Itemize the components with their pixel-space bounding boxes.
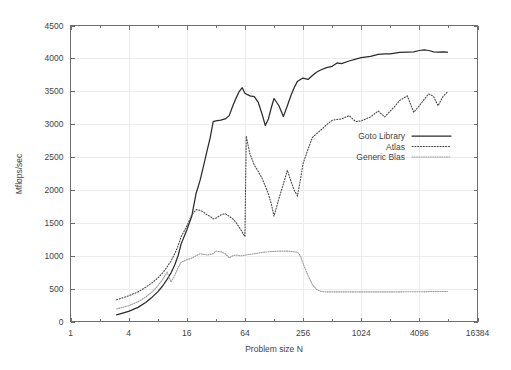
legend-label-atlas: Atlas — [386, 142, 405, 152]
chart-background — [0, 0, 511, 370]
x-axis-title: Problem size N — [245, 344, 303, 354]
x-tick-label: 4 — [126, 328, 131, 338]
y-tick-label: 3000 — [45, 119, 64, 129]
x-tick-label: 1024 — [352, 328, 371, 338]
y-tick-label: 1500 — [45, 218, 64, 228]
y-tick-label: 0 — [59, 317, 64, 327]
x-tick-label: 1 — [68, 328, 73, 338]
y-tick-label: 1000 — [45, 251, 64, 261]
x-tick-label: 256 — [296, 328, 310, 338]
x-tick-label: 16384 — [466, 328, 490, 338]
y-tick-label: 2500 — [45, 152, 64, 162]
chart-figure: 050010001500200025003000350040004500 141… — [0, 0, 511, 370]
x-tick-label: 16 — [182, 328, 192, 338]
y-tick-label: 500 — [49, 284, 63, 294]
x-tick-label: 64 — [240, 328, 250, 338]
y-axis-title: Mflops/sec — [14, 153, 24, 194]
legend-label-generic-blas: Generic Blas — [356, 152, 405, 162]
y-tick-label: 2000 — [45, 185, 64, 195]
x-tick-label: 4096 — [410, 328, 429, 338]
y-tick-label: 3500 — [45, 86, 64, 96]
legend-label-goto-library: Goto Library — [358, 131, 406, 141]
y-tick-label: 4500 — [45, 21, 64, 31]
y-tick-label: 4000 — [45, 53, 64, 63]
mflops-performance-line-chart: 050010001500200025003000350040004500 141… — [0, 0, 511, 370]
